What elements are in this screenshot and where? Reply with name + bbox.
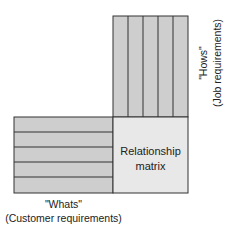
hows-block <box>113 16 188 117</box>
whats-block <box>14 117 113 193</box>
matrix-label-line1: Relationship <box>113 144 188 159</box>
matrix-label: Relationship matrix <box>113 144 188 174</box>
hows-subtitle: (Job requirements) <box>211 13 223 113</box>
whats-subtitle: (Customer requirements) <box>0 212 127 224</box>
matrix-label-line2: matrix <box>113 159 188 174</box>
hows-title: "Hows" <box>197 13 209 113</box>
whats-title: "Whats" <box>14 198 113 210</box>
